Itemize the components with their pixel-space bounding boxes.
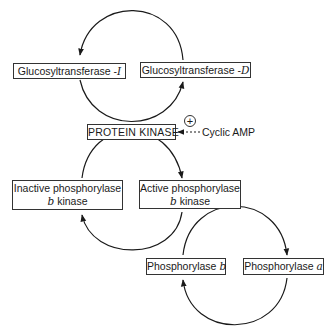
cyclic-amp-label: Cyclic AMP [202,126,255,138]
arc-pa-to-pb [183,278,287,325]
node-inactive-phosphorylase-b-kinase: Inactive phosphorylase b kinase [12,180,123,210]
node-label-line1: Active phosphorylase [140,182,240,195]
arc-gti-to-gtd [80,80,183,122]
node-label: Phosphorylase [147,260,219,272]
plus-activation-icon: + [184,115,196,127]
node-label-line1: Inactive phosphorylase [13,182,122,195]
node-glucosyltransferase-d: Glucosyltransferase -D [140,62,251,78]
node-label: Phosphorylase [244,260,316,272]
node-label: PROTEIN KINASE [88,126,175,139]
node-active-phosphorylase-b-kinase: Active phosphorylase b kinase [139,180,241,209]
node-phosphorylase-a: Phosphorylase a [243,258,324,275]
node-italic: b [170,195,177,207]
node-label-line2: kinase [177,195,210,207]
arc-gtd-to-gti [80,11,183,60]
node-suffix: I [117,65,121,77]
node-label-line2: kinase [54,195,87,207]
node-label: Glucosyltransferase - [142,64,241,76]
arc-apk-to-ipk [82,212,182,250]
arc-pb-to-pa [183,206,287,255]
node-protein-kinase: PROTEIN KINASE [87,124,176,140]
node-suffix: b [219,260,226,272]
node-suffix: a [317,260,323,272]
node-phosphorylase-b: Phosphorylase b [146,258,226,275]
cycle-arcs [0,0,336,331]
node-suffix: D [241,64,249,76]
node-glucosyltransferase-i: Glucosyltransferase -I [13,63,126,79]
node-label: Glucosyltransferase - [18,65,117,77]
